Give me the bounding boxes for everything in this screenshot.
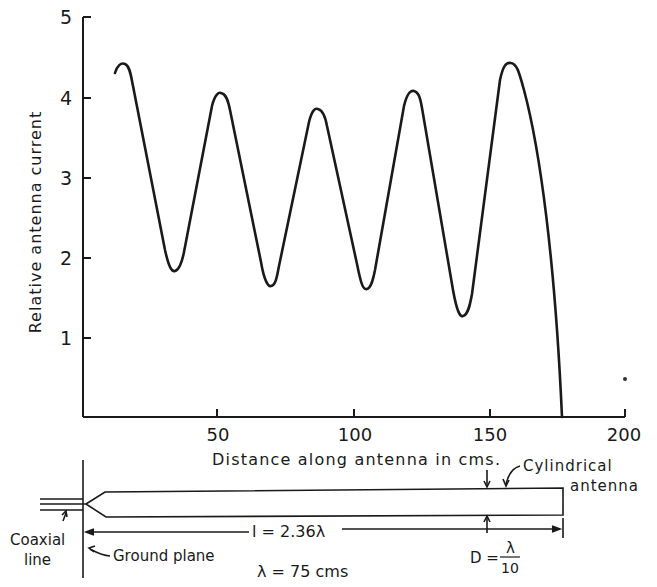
y-tick-labels: 5 4 3 2 1 [60,6,72,349]
x-tick-200: 200 [607,424,641,445]
x-tick-100: 100 [338,424,372,445]
y-tick-2: 2 [60,247,72,269]
chart-axes [83,17,625,417]
y-axis-title: Relative antenna current [26,111,45,334]
cylindrical-label-2: antenna [570,477,639,495]
x-tick-50: 50 [207,424,230,445]
y-tick-1: 1 [60,327,72,349]
cylindrical-label-1: Cylindrical [523,457,613,475]
ground-plane-label: Ground plane [113,547,215,565]
coaxial-label-1: Coaxial [10,531,65,549]
stray-mark [623,377,627,381]
cylindrical-antenna-body [86,488,563,517]
wavelength-label: λ = 75 cms [257,562,348,581]
x-tick-150: 150 [473,424,507,445]
x-tick-labels: 50 100 150 200 [207,424,642,445]
y-tick-3: 3 [60,167,72,189]
y-tick-5: 5 [60,6,72,28]
length-label: l = 2.36λ [252,522,325,541]
x-axis-title: Distance along antenna in cms. [212,450,501,469]
diameter-label-prefix: D = [470,549,499,567]
coaxial-label-2: line [24,551,51,569]
y-tick-4: 4 [60,87,72,109]
current-distribution-curve [115,63,562,417]
diagram-labels: Coaxial line Ground plane Cylindrical an… [10,457,639,581]
antenna-current-figure: 5 4 3 2 1 50 100 150 200 Distance along … [0,0,657,587]
diameter-denominator: 10 [501,560,519,576]
diameter-numerator: λ [506,539,515,557]
